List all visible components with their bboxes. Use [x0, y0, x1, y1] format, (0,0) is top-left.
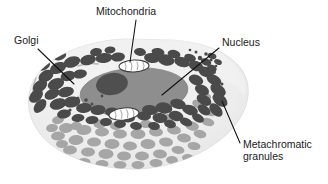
granule-dot — [59, 99, 62, 102]
granule-light — [81, 148, 95, 157]
granule-dot — [101, 95, 104, 98]
granule-dot — [189, 49, 192, 52]
granule-light — [132, 161, 145, 169]
granule-light — [114, 161, 127, 169]
granule-dot — [223, 91, 226, 94]
label-metachromatic-granules-line2: granules — [243, 150, 283, 162]
granule-dot — [77, 97, 80, 100]
label-golgi: Golgi — [14, 34, 39, 46]
granule-dot — [68, 108, 71, 111]
granule-dot — [195, 51, 198, 54]
granule-light — [78, 158, 91, 166]
cell-diagram-figure: GolgiMitochondriaNucleusMetachromaticgra… — [0, 0, 328, 184]
label-mitochondria: Mitochondria — [96, 5, 156, 17]
granule-dot — [91, 103, 94, 106]
diagram-canvas: GolgiMitochondriaNucleusMetachromaticgra… — [0, 0, 328, 184]
granule-dot — [212, 70, 216, 74]
granule-light — [105, 139, 120, 149]
granule-dot — [209, 58, 212, 61]
granule-dot — [201, 73, 204, 76]
granule-dot — [221, 83, 224, 86]
granule-dot — [206, 66, 209, 69]
granule-light — [113, 130, 127, 139]
label-nucleus: Nucleus — [222, 36, 260, 48]
label-metachromatic-granules-line1: Metachromatic — [243, 138, 312, 150]
granule-dark — [114, 120, 126, 128]
granule-light — [117, 152, 131, 161]
granule-light — [87, 138, 101, 147]
granule-dot — [198, 56, 202, 60]
granule-dot — [215, 65, 218, 68]
granule-light — [99, 149, 114, 159]
granule-dot — [84, 98, 88, 102]
granule-dot — [204, 52, 208, 56]
